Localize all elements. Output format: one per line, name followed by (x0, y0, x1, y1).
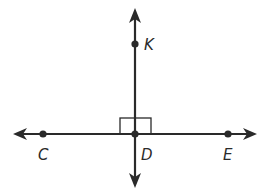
label-c: C (38, 146, 49, 164)
point-e (224, 130, 231, 137)
point-c (39, 130, 46, 137)
perpendicular-lines-diagram: K C D E (0, 0, 259, 190)
point-k (131, 40, 138, 47)
label-e: E (223, 146, 233, 164)
point-d (131, 130, 138, 137)
label-k: K (144, 36, 155, 54)
label-d: D (141, 146, 153, 164)
